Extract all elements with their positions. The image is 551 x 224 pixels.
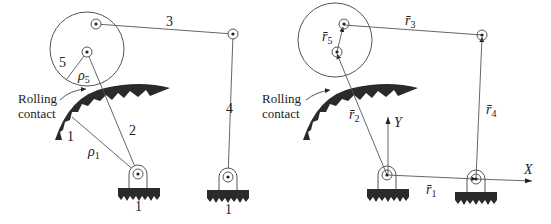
rolling-contact-label-left: Rolling contact: [18, 91, 57, 121]
rolling-contact-label-right: Rolling contact: [262, 91, 301, 121]
rho1-line: [72, 117, 136, 172]
pin-joint: [228, 29, 238, 39]
label-r1: r̄1: [426, 183, 436, 199]
ground-pivot-right: [207, 168, 249, 203]
link-3: [96, 24, 233, 34]
label-link-5: 5: [59, 56, 66, 70]
pin-joint: [91, 19, 101, 29]
vector-r1: [387, 175, 476, 179]
label-ground-left: 1: [135, 200, 142, 214]
x-axis: [476, 179, 532, 181]
vector-r2: [337, 54, 387, 175]
contact-arrow-right: [306, 90, 330, 100]
label-r5: r̄5: [322, 30, 332, 46]
label-ground-right: 1: [225, 203, 232, 217]
label-link-4: 4: [226, 102, 233, 116]
pin-joint: [82, 47, 92, 57]
label-x-axis: X: [524, 163, 533, 177]
label-link-1-arc: 1: [67, 130, 74, 144]
right-diagram: [298, 3, 532, 205]
pin-joint: [339, 19, 349, 29]
pin-joint: [332, 47, 342, 57]
label-r2: r̄2: [349, 108, 359, 124]
label-link-3: 3: [166, 15, 173, 29]
ground-pivot-left: [118, 165, 160, 201]
label-rho5: ρ5: [78, 69, 90, 85]
left-diagram: [50, 12, 249, 203]
label-r3: r̄3: [405, 14, 415, 30]
rolling-disk-5-vec: [298, 3, 372, 77]
vector-r4: [476, 37, 482, 179]
label-rho1: ρ1: [88, 145, 100, 161]
label-r4: r̄4: [486, 103, 496, 119]
label-y-axis: Y: [394, 116, 402, 130]
label-link-2: 2: [129, 124, 136, 138]
